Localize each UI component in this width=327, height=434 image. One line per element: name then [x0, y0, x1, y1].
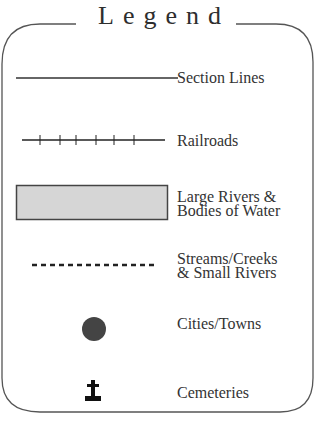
label-large-rivers: Large Rivers & Bodies of Water [177, 190, 280, 218]
label-cities: Cities/Towns [177, 317, 261, 331]
label-streams: Streams/Creeks & Small Rivers [177, 252, 277, 280]
section-line-icon [14, 72, 180, 84]
railroad-icon [20, 130, 170, 150]
stream-icon [30, 259, 160, 271]
water-body-icon [15, 184, 171, 224]
label-large-rivers-line2: Bodies of Water [177, 204, 280, 218]
label-section-lines: Section Lines [177, 71, 265, 85]
label-railroads: Railroads [177, 134, 238, 148]
legend-title: Legend [88, 1, 234, 31]
city-icon [80, 315, 108, 343]
label-streams-line2: & Small Rivers [177, 266, 277, 280]
label-cemeteries: Cemeteries [177, 386, 249, 400]
cemetery-icon [84, 379, 102, 403]
